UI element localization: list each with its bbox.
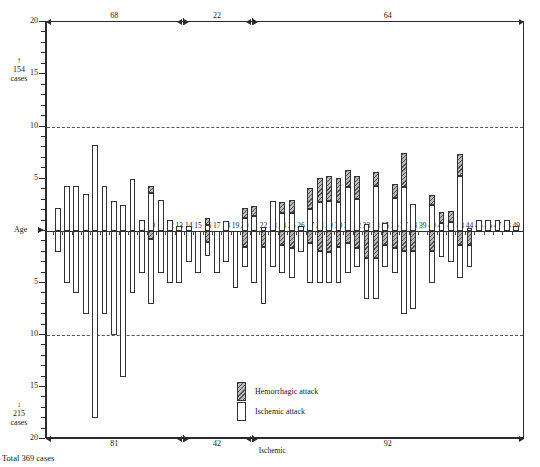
x-axis-tick	[493, 231, 494, 235]
bar-hemorrhagic-upper	[392, 184, 398, 198]
y-axis-tick	[41, 167, 45, 168]
bar-ischemic-lower	[176, 231, 182, 283]
ruler-segment-count: 81	[94, 439, 134, 448]
bar-hemorrhagic-upper	[345, 170, 351, 187]
bar-hemorrhagic-upper	[373, 172, 379, 186]
x-axis-tick	[512, 231, 513, 235]
bar-hemorrhagic-upper	[429, 195, 435, 204]
x-axis-tick-label: 39	[418, 220, 427, 231]
bar-ischemic-upper	[148, 193, 154, 231]
y-axis-label: 5	[34, 174, 38, 182]
y-axis-tick	[41, 292, 45, 293]
bar-hemorrhagic-upper	[317, 178, 323, 202]
bar-ischemic-upper	[495, 220, 501, 231]
bar-ischemic-upper	[429, 205, 435, 231]
y-axis-tick	[41, 417, 45, 418]
y-axis-tick	[41, 63, 45, 64]
y-axis-tick	[41, 313, 45, 314]
ruler-arrow-left-icon	[177, 436, 182, 442]
bar-ischemic-lower	[130, 231, 136, 293]
bar-ischemic-lower	[326, 252, 332, 283]
bar-ischemic-upper	[439, 223, 445, 231]
y-axis-tick	[39, 178, 45, 179]
legend-label-ischemic: Ischemic attack	[255, 407, 305, 416]
bar-hemorrhagic-upper	[326, 176, 332, 201]
ruler-arrow-right-icon	[184, 436, 189, 442]
bar-ischemic-lower	[83, 231, 89, 314]
bar-ischemic-upper	[223, 221, 229, 231]
bar-ischemic-lower	[120, 231, 126, 377]
bar-hemorrhagic-lower	[148, 231, 154, 239]
bar-ischemic-lower	[364, 258, 370, 299]
bar-ischemic-lower	[55, 231, 61, 252]
bar-ischemic-lower	[223, 231, 229, 262]
bar-ischemic-upper	[279, 213, 285, 231]
bar-ischemic-lower	[392, 248, 398, 273]
bar-ischemic-lower	[457, 245, 463, 278]
bar-hemorrhagic-lower	[345, 231, 351, 243]
chart-figure: 682264 20151055101520 ↑ 154 cases ↓ 215 …	[0, 0, 540, 467]
ruler-segment-count: 92	[368, 439, 408, 448]
bar-ischemic-lower	[195, 231, 201, 273]
bar-ischemic-lower	[410, 251, 416, 309]
bar-ischemic-upper	[92, 145, 98, 231]
y-axis-label: 10	[30, 330, 38, 338]
bar-ischemic-lower	[167, 231, 173, 283]
ruler-arrow-left-icon	[246, 436, 251, 442]
x-axis-tick-label: 15	[193, 220, 202, 231]
y-axis-label: 5	[34, 278, 38, 286]
bar-hemorrhagic-upper	[439, 212, 445, 222]
bar-ischemic-lower	[102, 231, 108, 314]
bar-ischemic-upper	[326, 201, 332, 231]
x-axis-tick	[474, 231, 475, 235]
lower-total-count: 215	[2, 409, 36, 418]
y-axis-tick	[41, 31, 45, 32]
bar-ischemic-lower	[317, 251, 323, 283]
bar-hemorrhagic-lower	[410, 231, 416, 251]
bar-hemorrhagic-lower	[279, 231, 285, 245]
bar-hemorrhagic-lower	[457, 231, 463, 245]
x-axis-tick-label: 19	[231, 220, 240, 231]
y-axis-tick	[39, 126, 45, 127]
y-axis-tick	[41, 199, 45, 200]
bar-ischemic-upper	[513, 226, 519, 231]
bar-hemorrhagic-lower	[317, 231, 323, 251]
y-axis-label: 10	[30, 122, 38, 130]
up-arrow-icon: ↑	[2, 57, 36, 65]
y-axis-tick	[41, 407, 45, 408]
bottom-ruler-ischemic-label: Ischemic	[259, 446, 286, 455]
bar-hemorrhagic-upper	[279, 202, 285, 213]
bar-ischemic-lower	[401, 251, 407, 314]
bar-ischemic-lower	[467, 245, 473, 268]
bar-ischemic-lower	[205, 242, 211, 256]
upper-total-count: 154	[2, 65, 36, 74]
y-axis-label: 20	[30, 434, 38, 442]
bar-ischemic-upper	[158, 200, 164, 231]
y-axis-tick	[39, 334, 45, 335]
bar-ischemic-upper	[317, 202, 323, 231]
y-axis-tick	[41, 209, 45, 210]
bar-ischemic-upper	[307, 209, 313, 231]
ruler-arrow-right-icon	[519, 436, 524, 442]
bar-hemorrhagic-lower	[326, 231, 332, 252]
y-axis-tick	[41, 272, 45, 273]
y-axis-tick	[41, 146, 45, 147]
bar-hemorrhagic-lower	[382, 231, 388, 245]
bar-hemorrhagic-upper	[448, 211, 454, 221]
age-axis-arrow-icon	[38, 227, 44, 233]
bar-hemorrhagic-upper	[336, 178, 342, 202]
bar-hemorrhagic-upper	[354, 176, 360, 199]
bar-ischemic-upper	[251, 216, 257, 231]
bar-hemorrhagic-lower	[364, 231, 370, 258]
bar-ischemic-lower	[139, 231, 145, 273]
bar-ischemic-upper	[373, 186, 379, 231]
bar-ischemic-upper	[401, 187, 407, 231]
down-arrow-icon: ↓	[2, 401, 36, 409]
x-axis-tick	[418, 231, 419, 235]
bar-ischemic-lower	[279, 245, 285, 273]
y-axis-tick	[41, 324, 45, 325]
bar-ischemic-upper	[392, 198, 398, 231]
y-axis-tick	[39, 386, 45, 387]
bar-ischemic-lower	[270, 231, 276, 267]
bar-ischemic-upper	[64, 186, 70, 231]
